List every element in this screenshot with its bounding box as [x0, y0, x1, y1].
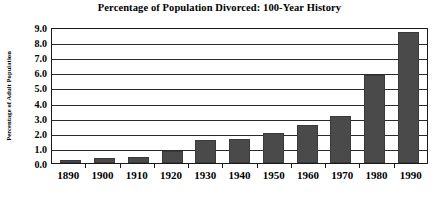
y-axis-tick-label: 1.0	[35, 143, 48, 154]
bar-1940	[229, 139, 250, 163]
x-axis-tick-mark	[257, 164, 258, 168]
x-axis-tick-label: 1970	[325, 169, 359, 187]
bar-slot	[290, 29, 324, 163]
x-axis-tick-label: 1950	[257, 169, 291, 187]
y-axis-tick-label: 0.0	[35, 159, 48, 170]
bar-slot	[88, 29, 122, 163]
bar-1970	[330, 116, 351, 163]
x-axis-tick-mark	[325, 164, 326, 168]
x-axis-tick-label: 1910	[120, 169, 154, 187]
y-axis-title: Percentage of Adult Population	[5, 51, 12, 141]
chart-title: Percentage of Population Divorced: 100-Y…	[0, 2, 439, 13]
y-axis-title-container: Percentage of Adult Population	[2, 28, 14, 164]
bars-layer	[52, 29, 427, 163]
bar-slot	[358, 29, 392, 163]
x-axis-tick-mark	[291, 164, 292, 168]
x-axis-tick-label: 1920	[154, 169, 188, 187]
bar-1950	[263, 133, 284, 163]
x-axis-tick-mark	[120, 164, 121, 168]
y-axis-tick-label: 2.0	[35, 128, 48, 139]
y-axis-tick-label: 5.0	[35, 83, 48, 94]
x-axis-tick-labels: 1890190019101920193019401950196019701980…	[51, 169, 428, 187]
bar-1910	[128, 157, 149, 163]
y-axis-tick-label: 9.0	[35, 23, 48, 34]
bar-slot	[155, 29, 189, 163]
x-axis-tick-label: 1940	[222, 169, 256, 187]
x-axis-tick-label: 1990	[394, 169, 428, 187]
y-axis-tick-label: 8.0	[35, 38, 48, 49]
x-axis-tick-mark	[85, 164, 86, 168]
bar-slot	[391, 29, 425, 163]
bar-1990	[398, 32, 419, 163]
bar-1900	[94, 158, 115, 163]
y-axis-tick-labels: 0.01.02.03.04.05.06.07.08.09.0	[16, 28, 50, 164]
y-axis-tick-label: 7.0	[35, 53, 48, 64]
y-axis-tick-label: 3.0	[35, 113, 48, 124]
bar-slot	[121, 29, 155, 163]
x-axis-tick-mark	[188, 164, 189, 168]
x-axis-tick-marks	[51, 164, 428, 168]
y-axis-tick-label: 6.0	[35, 68, 48, 79]
y-axis-tick-label: 4.0	[35, 98, 48, 109]
bar-1960	[297, 125, 318, 163]
bar-slot	[223, 29, 257, 163]
bar-slot	[54, 29, 88, 163]
bar-1890	[60, 160, 81, 163]
x-axis-tick-mark	[154, 164, 155, 168]
x-axis-tick-mark	[222, 164, 223, 168]
x-axis-tick-label: 1930	[188, 169, 222, 187]
bar-slot	[256, 29, 290, 163]
x-axis-tick-label: 1960	[291, 169, 325, 187]
x-axis-tick-label: 1890	[51, 169, 85, 187]
x-axis-tick-mark	[359, 164, 360, 168]
x-axis-tick-label: 1980	[359, 169, 393, 187]
bar-1980	[364, 75, 385, 163]
bar-slot	[324, 29, 358, 163]
x-axis-tick-label: 1900	[85, 169, 119, 187]
x-axis-tick-mark	[394, 164, 395, 168]
bar-1930	[195, 140, 216, 163]
bar-1920	[162, 151, 183, 163]
divorce-percentage-bar-chart: Percentage of Population Divorced: 100-Y…	[0, 0, 439, 198]
bar-slot	[189, 29, 223, 163]
plot-area	[51, 28, 428, 164]
